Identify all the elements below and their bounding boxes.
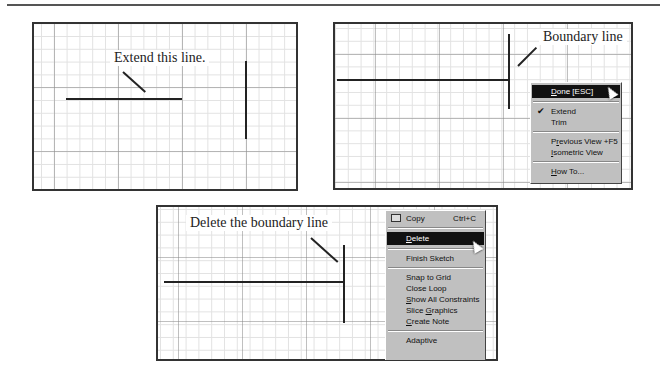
menu-item-label: reate Note xyxy=(412,317,449,326)
leader-line xyxy=(517,47,537,67)
menu-item-label: ow To... xyxy=(557,167,584,176)
leader-line xyxy=(122,71,146,93)
menu-item-previous-view[interactable]: Previous View +F5 xyxy=(532,136,620,147)
leader-line xyxy=(310,237,338,263)
sketch-line-vertical[interactable] xyxy=(245,61,247,139)
sketch-line-horizontal[interactable] xyxy=(337,79,509,81)
menu-item-label: raphics xyxy=(432,306,458,315)
menu-item-trim[interactable]: Trim xyxy=(532,117,620,128)
menu-item-label: one [ESC] xyxy=(557,87,593,96)
menu-item-copy[interactable]: CopyCtrl+C xyxy=(387,213,484,224)
menu-item-label: sometric View xyxy=(553,148,603,157)
sketch-canvas-extend[interactable]: Extend this line. xyxy=(32,22,298,191)
menu-item-show-all-constraints[interactable]: Show All Constraints xyxy=(387,294,484,305)
menu-item-label: Snap to Grid xyxy=(406,273,451,282)
menu-separator xyxy=(388,267,483,269)
menu-item-adaptive[interactable]: Adaptive xyxy=(387,335,484,346)
menu-item-label: elete xyxy=(412,234,429,243)
boundary-line[interactable] xyxy=(343,245,345,323)
menu-item-snap-to-grid[interactable]: Snap to Grid xyxy=(387,272,484,283)
shortcut-label: +F5 xyxy=(604,137,618,146)
menu-item-label: Close Loop xyxy=(406,284,446,293)
menu-item-slice-graphics[interactable]: Slice Graphics xyxy=(387,305,484,316)
callout-boundary-line: Boundary line xyxy=(539,29,627,45)
menu-separator xyxy=(533,161,619,163)
copy-icon xyxy=(391,214,401,222)
top-rule xyxy=(7,4,660,6)
menu-item-label: how All Constraints xyxy=(411,295,479,304)
menu-separator xyxy=(533,131,619,133)
menu-separator xyxy=(533,101,619,103)
callout-extend-line: Extend this line. xyxy=(110,50,209,66)
callout-delete-boundary: Delete the boundary line xyxy=(186,215,332,231)
shortcut-label: Ctrl+C xyxy=(453,213,476,224)
sketch-line-horizontal[interactable] xyxy=(66,98,182,100)
checkmark-icon: ✔ xyxy=(537,106,545,117)
menu-item-finish-sketch[interactable]: Finish Sketch xyxy=(387,253,484,264)
menu-item-label: Slice xyxy=(406,306,426,315)
menu-item-label: evious View xyxy=(559,137,602,146)
menu-separator xyxy=(388,227,483,229)
menu-item-isometric-view[interactable]: Isometric View xyxy=(532,147,620,158)
menu-item-label: Extend xyxy=(551,107,576,116)
menu-item-label: Finish Sketch xyxy=(406,254,454,263)
menu-item-how-to[interactable]: How To... xyxy=(532,166,620,177)
sketch-line-horizontal[interactable] xyxy=(164,281,344,283)
menu-separator xyxy=(388,248,483,250)
menu-item-label: Copy xyxy=(406,214,425,223)
context-menu-sketch: CopyCtrl+C Delete Finish Sketch Snap to … xyxy=(385,210,486,360)
menu-item-label: Adaptive xyxy=(406,336,437,345)
menu-item-label: Trim xyxy=(551,118,567,127)
menu-item-create-note[interactable]: Create Note xyxy=(387,316,484,327)
menu-item-close-loop[interactable]: Close Loop xyxy=(387,283,484,294)
menu-separator xyxy=(388,330,483,332)
menu-item-extend[interactable]: ✔Extend xyxy=(532,106,620,117)
boundary-line[interactable] xyxy=(508,34,510,109)
